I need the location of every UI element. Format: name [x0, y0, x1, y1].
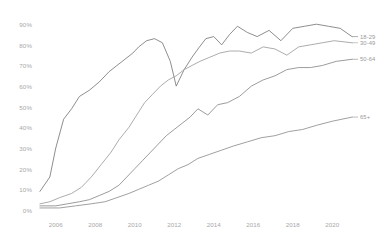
legend-label-50-64[interactable]: 50-64 [360, 56, 375, 62]
legend: 18-2930-4950-6465+ [0, 0, 392, 245]
legend-label-18-29[interactable]: 18-29 [360, 34, 375, 40]
legend-label-30-49[interactable]: 30-49 [360, 40, 375, 46]
line-chart: 0%10%20%30%40%50%60%70%80%90% 2006200820… [0, 0, 392, 245]
legend-label-65+[interactable]: 65+ [360, 114, 370, 120]
